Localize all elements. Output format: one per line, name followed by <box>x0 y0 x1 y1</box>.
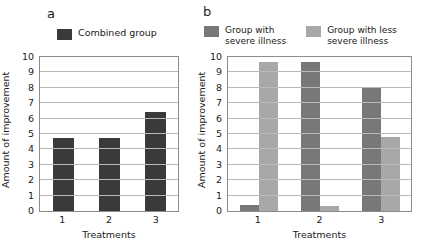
bar <box>259 62 278 211</box>
gridline <box>40 179 178 180</box>
gridline <box>228 118 411 119</box>
gridline <box>40 195 178 196</box>
legend-label-less-severe-illness: Group with less severe illness <box>327 25 397 46</box>
y-tick-label: 0 <box>28 206 34 216</box>
y-tick-label: 3 <box>28 160 34 170</box>
x-tick-label: 2 <box>86 214 133 225</box>
panel-a-y-axis-label: Amount of improvement <box>0 60 11 200</box>
panel-b-letter: b <box>203 4 211 19</box>
y-tick-label: 0 <box>216 206 222 216</box>
panel-a-legend: Combined group <box>57 28 157 40</box>
y-tick-label: 10 <box>22 52 34 62</box>
legend-entry-severe-illness: Group with severe illness <box>204 25 286 46</box>
bar <box>301 62 320 211</box>
y-tick-label: 7 <box>216 98 222 108</box>
y-tick-label: 4 <box>216 145 222 155</box>
y-tick-label: 9 <box>216 68 222 78</box>
x-tick-label: 1 <box>39 214 86 225</box>
gridline <box>40 102 178 103</box>
bar-group <box>228 57 289 211</box>
y-tick-label: 5 <box>28 129 34 139</box>
panel-b-y-axis-label: Amount of improvement <box>196 60 207 200</box>
legend-swatch-severe-illness <box>204 26 219 37</box>
panel-a-letter: a <box>47 6 55 21</box>
gridline <box>40 164 178 165</box>
panel-a-bars <box>40 57 178 211</box>
bar-group <box>132 57 178 211</box>
x-tick-label: 3 <box>132 214 179 225</box>
panel-b-x-ticks: 123 <box>227 214 412 225</box>
x-tick-label: 3 <box>350 214 412 225</box>
panel-b-bars <box>228 57 411 211</box>
y-tick-label: 6 <box>28 114 34 124</box>
bar-group <box>40 57 86 211</box>
y-tick-label: 9 <box>28 68 34 78</box>
gridline <box>228 195 411 196</box>
gridline <box>228 133 411 134</box>
gridline <box>40 118 178 119</box>
figure-two-panel-bar-charts: a Combined group Amount of improvement 0… <box>0 0 423 252</box>
panel-b-legend: Group with severe illness Group with les… <box>204 25 419 46</box>
y-tick-label: 10 <box>210 52 222 62</box>
bar-group <box>86 57 132 211</box>
bar <box>362 88 381 211</box>
panel-a-plot-area <box>39 56 179 212</box>
gridline <box>40 71 178 72</box>
panel-a-x-ticks: 123 <box>39 214 179 225</box>
panel-b-plot-area <box>227 56 412 212</box>
gridline <box>228 148 411 149</box>
gridline <box>228 179 411 180</box>
panel-b: b Group with severe illness Group with l… <box>196 0 423 252</box>
y-tick-label: 8 <box>28 83 34 93</box>
y-tick-label: 6 <box>216 114 222 124</box>
gridline <box>40 87 178 88</box>
y-tick-label: 8 <box>216 83 222 93</box>
y-tick-label: 2 <box>28 175 34 185</box>
legend-entry-less-severe-illness: Group with less severe illness <box>306 25 397 46</box>
x-tick-label: 2 <box>289 214 351 225</box>
panel-b-x-axis-label: Treatments <box>227 229 412 240</box>
panel-a-y-ticks: 012345678910 <box>20 56 36 212</box>
gridline <box>40 148 178 149</box>
y-tick-label: 1 <box>216 191 222 201</box>
gridline <box>228 87 411 88</box>
gridline <box>228 71 411 72</box>
legend-entry-combined-group: Combined group <box>57 28 157 40</box>
bar-group <box>350 57 411 211</box>
y-tick-label: 4 <box>28 145 34 155</box>
gridline <box>228 164 411 165</box>
x-tick-label: 1 <box>227 214 289 225</box>
legend-swatch-less-severe-illness <box>306 26 321 37</box>
y-tick-label: 1 <box>28 191 34 201</box>
panel-b-y-ticks: 012345678910 <box>208 56 224 212</box>
bar-group <box>289 57 350 211</box>
y-tick-label: 5 <box>216 129 222 139</box>
y-tick-label: 3 <box>216 160 222 170</box>
bar <box>145 112 166 211</box>
gridline <box>228 102 411 103</box>
gridline <box>40 133 178 134</box>
y-tick-label: 7 <box>28 98 34 108</box>
legend-label-combined-group: Combined group <box>78 28 157 39</box>
panel-a-x-axis-label: Treatments <box>39 229 179 240</box>
bar <box>320 206 339 211</box>
legend-label-severe-illness: Group with severe illness <box>225 25 286 46</box>
bar <box>240 205 259 211</box>
panel-a: a Combined group Amount of improvement 0… <box>0 0 196 252</box>
legend-swatch-combined-group <box>57 29 72 40</box>
y-tick-label: 2 <box>216 175 222 185</box>
